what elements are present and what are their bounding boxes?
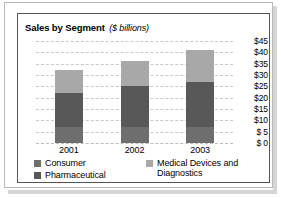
bar-segment[interactable] [55,70,83,93]
legend-label: Pharmaceutical [45,170,106,180]
y-axis: $45$40$35$30$25$20$15$10$ 5$ 0 [236,41,272,143]
bar-segment[interactable] [186,50,214,82]
plot-area [36,41,233,143]
chart-panel: Sales by Segment ($ billions) $45$40$35$… [17,13,270,183]
y-axis-tick-label: $20 [254,93,268,103]
legend-swatch-icon [34,172,41,179]
bar-segment[interactable] [55,127,83,143]
chart-title: Sales by Segment ($ billions) [25,20,149,34]
x-axis-tick-label: 2002 [125,145,145,155]
bar-segment[interactable] [121,86,149,127]
chart-legend: ConsumerPharmaceutical Medical Devices a… [34,158,262,182]
gridline [36,143,233,144]
y-axis-tick-label: $30 [254,70,268,80]
legend-label: Consumer [45,158,86,168]
legend-swatch-icon [146,160,153,167]
chart-title-units: ($ billions) [109,23,149,33]
page-drop-shadow-right [273,6,277,192]
legend-item[interactable]: Medical Devices andDiagnostics [146,158,262,178]
bar-segment[interactable] [186,127,214,143]
y-axis-tick-label: $ 0 [256,138,268,148]
bar-segment[interactable] [121,61,149,86]
y-axis-tick-label: $40 [254,47,268,57]
y-axis-tick-label: $ 5 [256,127,268,137]
bar-segment[interactable] [186,82,214,127]
y-axis-tick-label: $25 [254,81,268,91]
page-frame: Sales by Segment ($ billions) $45$40$35$… [4,2,273,188]
bar-segment[interactable] [121,127,149,143]
legend-column-left: ConsumerPharmaceutical [34,158,144,182]
x-axis-tick-label: 2003 [190,145,210,155]
page-drop-shadow-bottom [8,190,277,194]
bar-segment[interactable] [55,93,83,127]
x-axis: 200120022003 [36,145,233,157]
legend-swatch-icon [34,160,41,167]
gridline [36,41,233,42]
bar-2002[interactable] [121,61,149,143]
legend-label: Medical Devices andDiagnostics [157,158,238,178]
legend-item[interactable]: Pharmaceutical [34,170,144,180]
y-axis-tick-label: $45 [254,36,268,46]
y-axis-tick-label: $35 [254,59,268,69]
bar-2003[interactable] [186,50,214,143]
bar-2001[interactable] [55,70,83,143]
legend-column-right: Medical Devices andDiagnostics [146,158,262,180]
y-axis-tick-label: $15 [254,104,268,114]
chart-title-text: Sales by Segment [25,22,105,33]
x-axis-tick-label: 2001 [59,145,79,155]
legend-item[interactable]: Consumer [34,158,144,168]
y-axis-tick-label: $10 [254,115,268,125]
